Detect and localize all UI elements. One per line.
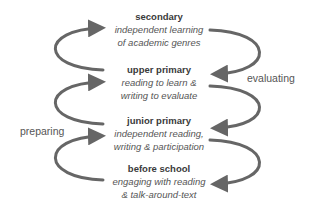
stage-desc-line: writing to evaluate (100, 89, 218, 102)
stage-desc-line: writing & participation (100, 140, 218, 153)
stage-desc-line: engaging with reading (100, 175, 218, 188)
stage-secondary: secondary independent learning of academ… (100, 10, 218, 49)
stage-title: upper primary (100, 63, 218, 76)
stage-title: junior primary (100, 114, 218, 127)
stage-desc-line: reading to learn & (100, 76, 218, 89)
preparing-arrow-3 (55, 136, 103, 180)
stage-before-school: before school engaging with reading & ta… (100, 162, 218, 201)
stage-title: secondary (100, 10, 218, 23)
stage-desc-line: & talk-around-text (100, 188, 218, 201)
preparing-arrow-1 (55, 28, 103, 70)
preparing-arrow-2 (55, 82, 103, 124)
stage-junior-primary: junior primary independent reading, writ… (100, 114, 218, 153)
stage-title: before school (100, 162, 218, 175)
preparing-label: preparing (20, 125, 64, 137)
stage-desc-line: independent learning (100, 23, 218, 36)
literacy-development-diagram: secondary independent learning of academ… (0, 0, 317, 213)
stage-upper-primary: upper primary reading to learn & writing… (100, 63, 218, 102)
stage-desc-line: independent reading, (100, 127, 218, 140)
stage-desc-line: of academic genres (100, 36, 218, 49)
evaluating-label: evaluating (247, 72, 295, 84)
